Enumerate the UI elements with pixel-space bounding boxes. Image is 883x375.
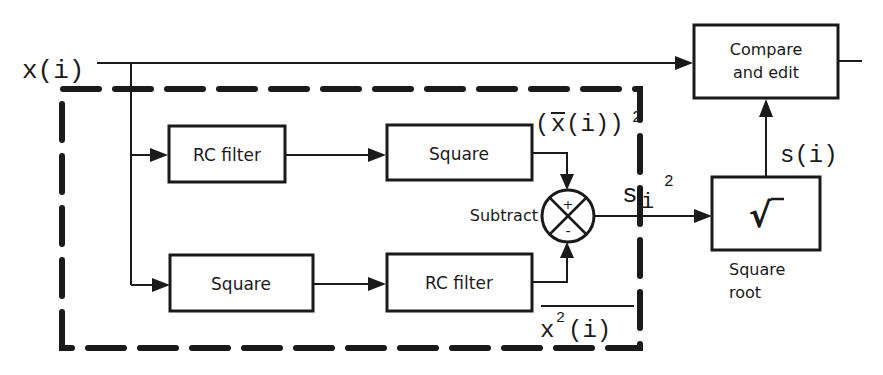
arrow-head bbox=[152, 278, 170, 292]
arrow-head bbox=[759, 99, 773, 117]
svg-text:(i): (i) bbox=[568, 317, 611, 344]
square-root-caption-line1: Square bbox=[729, 260, 785, 279]
subtract-junction: + - bbox=[542, 190, 594, 242]
arrow-head bbox=[560, 242, 574, 258]
square-top-label: Square bbox=[429, 144, 489, 164]
arrow-head bbox=[368, 148, 386, 162]
svg-text:2: 2 bbox=[664, 173, 674, 191]
plus-sign: + bbox=[563, 197, 574, 212]
svg-text:(i)): (i)) bbox=[566, 111, 624, 138]
subtract-label: Subtract bbox=[470, 206, 538, 225]
arrow-head bbox=[150, 148, 168, 162]
block-diagram: x(i) RC filter Square ( x (i)) 2 Square … bbox=[0, 0, 883, 375]
std-dev-label: s(i) bbox=[780, 142, 838, 169]
sqrt-icon: √ bbox=[749, 195, 772, 235]
svg-text:s: s bbox=[622, 180, 638, 210]
arrow-head bbox=[368, 277, 386, 291]
square-root-caption-line2: root bbox=[729, 283, 761, 302]
svg-text:x: x bbox=[540, 317, 554, 344]
compare-edit-line2: and edit bbox=[733, 63, 799, 82]
arrow-head bbox=[560, 174, 574, 190]
compare-edit-block bbox=[694, 25, 838, 98]
arrow-head bbox=[694, 209, 712, 223]
rc-filter-top-label: RC filter bbox=[193, 145, 261, 165]
mean-of-square-label: x 2 (i) bbox=[540, 306, 634, 344]
rc-filter-bottom-label: RC filter bbox=[425, 273, 493, 293]
mean-squared-label: ( x (i)) 2 bbox=[535, 109, 642, 138]
svg-text:i: i bbox=[641, 190, 654, 215]
svg-text:2: 2 bbox=[632, 109, 642, 127]
arrow-head bbox=[675, 56, 693, 70]
svg-text:(: ( bbox=[535, 111, 549, 138]
square-bottom-label: Square bbox=[211, 274, 271, 294]
variance-label: s i 2 bbox=[622, 173, 674, 215]
svg-text:2: 2 bbox=[556, 310, 565, 327]
input-label: x(i) bbox=[22, 56, 84, 86]
svg-text:x: x bbox=[551, 111, 565, 138]
minus-sign: - bbox=[565, 223, 570, 239]
compare-edit-line1: Compare bbox=[730, 40, 803, 59]
